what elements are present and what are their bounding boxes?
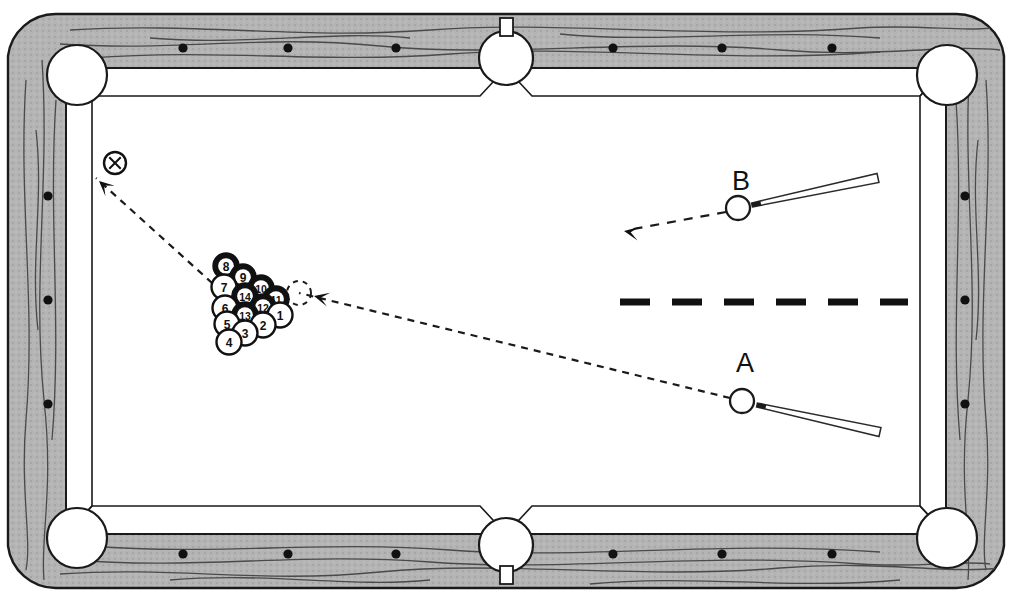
rail-dot	[43, 399, 52, 408]
rail-dot	[391, 43, 400, 52]
rail-dot	[43, 191, 52, 200]
rail-dot	[283, 549, 292, 558]
ball-number: 8	[223, 260, 230, 274]
ball-number: 14	[239, 291, 251, 303]
cue-ball-body-A	[730, 389, 754, 413]
bottom-side-pocket	[479, 518, 533, 572]
pool-table-diagram: 8971014116121315234 AB	[0, 0, 1012, 602]
ball-number: 1	[277, 309, 284, 323]
table-canvas: 8971014116121315234 AB	[0, 0, 1012, 602]
rail-dot	[827, 549, 836, 558]
rail-dot	[608, 43, 617, 52]
top-side-pocket	[479, 31, 533, 85]
ball-number: 7	[221, 281, 228, 295]
bottom-right-pocket	[917, 508, 977, 568]
top-left-pocket	[47, 45, 107, 105]
rail-dot	[43, 295, 52, 304]
rail-dot	[178, 43, 187, 52]
rail-dot	[608, 549, 617, 558]
rail-dot	[960, 295, 969, 304]
rail-dot	[391, 549, 400, 558]
rail-dot	[960, 399, 969, 408]
ball-number: 3	[242, 327, 249, 341]
rail-dot	[283, 43, 292, 52]
cue-ball-body-B	[726, 196, 750, 220]
bottom-left-pocket	[47, 508, 107, 568]
cue-ball-label-B: B	[732, 166, 750, 196]
ball-number: 4	[226, 336, 233, 350]
top-right-pocket	[917, 45, 977, 105]
rail-dot	[827, 43, 836, 52]
rail-dot	[717, 549, 726, 558]
cue-ball-label-A: A	[736, 348, 754, 378]
rack-ball-4: 4	[217, 330, 242, 355]
rail-dot	[717, 43, 726, 52]
rail-dot	[960, 191, 969, 200]
rail-dot	[178, 549, 187, 558]
ball-number: 2	[260, 319, 267, 333]
play-surface	[66, 68, 946, 534]
x-target-marker	[104, 152, 126, 174]
